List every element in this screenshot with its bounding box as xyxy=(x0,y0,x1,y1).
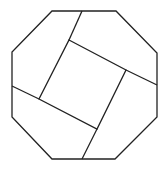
cut-line xyxy=(12,86,39,99)
cut-lines xyxy=(12,11,157,159)
cut-line xyxy=(82,129,97,159)
octagon-dissection-diagram xyxy=(0,0,165,169)
cut-line xyxy=(69,11,82,40)
octagon-outline xyxy=(12,11,157,159)
inner-square xyxy=(39,40,126,129)
cut-line xyxy=(126,70,157,85)
